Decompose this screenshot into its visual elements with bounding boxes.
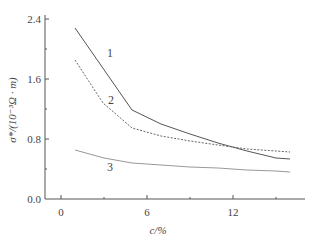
x-axis-title: c/%: [149, 224, 166, 236]
x-tick-label: 0: [58, 206, 64, 218]
curve-1-label: 1: [107, 46, 113, 60]
y-tick-label: 1.6: [27, 73, 41, 85]
x-tick-label: 12: [228, 206, 239, 218]
x-axis: [45, 195, 305, 199]
y-tick-label: 2.4: [27, 13, 41, 25]
curve-3-label: 3: [107, 160, 113, 174]
curve-2-label: 2: [108, 93, 114, 107]
x-tick-label: 6: [144, 206, 150, 218]
y-tick-label: 0.8: [27, 133, 41, 145]
chart-canvas: 2.4 1.6 0.8 0.0 0 6 12 c/% σ*/(10⁻³Ω · m…: [0, 0, 319, 243]
y-axis-title: σ*/(10⁻³Ω · m): [6, 77, 19, 143]
y-axis: [45, 15, 49, 199]
y-tick-label: 0.0: [27, 193, 41, 205]
